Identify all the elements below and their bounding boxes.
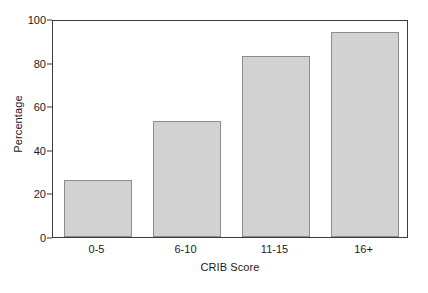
bar [331, 32, 399, 237]
x-axis-tick-labels: 0-56-1011-1516+ [52, 243, 408, 259]
bar [242, 56, 310, 237]
x-tick-label: 16+ [354, 243, 373, 255]
bar [153, 121, 221, 237]
y-axis-tick-labels: 020406080100 [0, 0, 46, 293]
y-tick-mark [47, 107, 52, 108]
y-tick-mark [47, 194, 52, 195]
y-tick-label: 40 [2, 145, 46, 157]
y-tick-label: 20 [2, 188, 46, 200]
plot-frame [52, 20, 408, 238]
bar [64, 180, 132, 237]
y-tick-mark [47, 238, 52, 239]
y-tick-label: 80 [2, 58, 46, 70]
y-tick-label: 100 [2, 14, 46, 26]
plot-area [53, 21, 407, 237]
y-tick-mark [47, 20, 52, 21]
y-tick-label: 60 [2, 101, 46, 113]
y-tick-mark [47, 63, 52, 64]
y-tick-mark [47, 150, 52, 151]
x-tick-label: 6-10 [174, 243, 196, 255]
y-tick-label: 0 [2, 232, 46, 244]
bar-chart-figure: Percentage 020406080100 0-56-1011-1516+ … [0, 0, 428, 293]
x-tick-label: 11-15 [261, 243, 288, 255]
x-tick-label: 0-5 [89, 243, 105, 255]
x-axis-title: CRIB Score [52, 261, 408, 273]
